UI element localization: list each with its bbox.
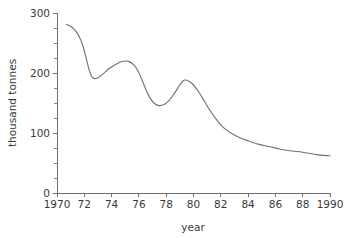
x-tick-label: 84 — [241, 198, 255, 210]
x-tick-label: 80 — [187, 198, 200, 210]
series-line — [67, 24, 330, 155]
x-tick-label: 78 — [160, 198, 173, 210]
x-tick-label: 82 — [214, 198, 227, 210]
tick-labels: 010020030019707274767880828486881990 — [30, 7, 343, 210]
y-tick-label: 100 — [30, 127, 50, 139]
y-tick-label: 300 — [30, 7, 50, 19]
x-tick-label: 1990 — [317, 198, 344, 210]
y-axis-title: thousand tonnes — [6, 59, 18, 147]
axes — [57, 13, 330, 193]
tick-marks — [53, 13, 330, 197]
y-tick-label: 0 — [43, 187, 50, 199]
x-tick-label: 1970 — [44, 198, 71, 210]
x-axis-title: year — [181, 221, 205, 233]
x-tick-label: 86 — [269, 198, 283, 210]
chart-container: 010020030019707274767880828486881990 yea… — [0, 0, 345, 238]
y-tick-label: 200 — [30, 67, 50, 79]
x-tick-label: 72 — [78, 198, 91, 210]
x-tick-label: 74 — [105, 198, 119, 210]
x-tick-label: 76 — [132, 198, 146, 210]
data-series — [67, 24, 330, 155]
x-tick-label: 88 — [296, 198, 309, 210]
line-chart: 010020030019707274767880828486881990 yea… — [0, 0, 345, 238]
